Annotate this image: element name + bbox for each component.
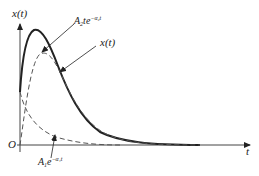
x-t-pointer-arrow xyxy=(60,46,96,72)
x-t-curve-label: x(t) xyxy=(99,36,116,49)
a2-te-pointer-arrow xyxy=(42,24,74,52)
a2-te-curve xyxy=(20,53,200,145)
a2-te-label: A2te−α₂t xyxy=(73,15,102,27)
origin-label: O xyxy=(8,138,16,150)
a1-e-curve xyxy=(20,92,120,145)
a1-e-label: A1e−α₁t xyxy=(37,156,63,168)
response-diagram: x(t) t O A2te−α₂t x(t) A1e−α₁t xyxy=(0,0,259,176)
y-axis-label: x(t) xyxy=(11,7,28,20)
svg-text:A2te−α₂t: A2te−α₂t xyxy=(73,15,102,27)
svg-text:A1e−α₁t: A1e−α₁t xyxy=(37,156,63,168)
a1-e-pointer-arrow xyxy=(51,135,55,158)
x-axis-label: t xyxy=(246,145,250,157)
